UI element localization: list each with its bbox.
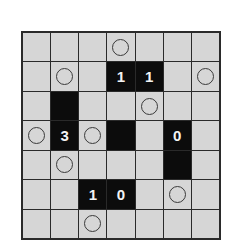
empty-cell[interactable]	[136, 180, 163, 208]
empty-cell[interactable]	[192, 121, 219, 149]
empty-cell[interactable]	[192, 210, 219, 238]
empty-cell[interactable]	[23, 92, 50, 120]
empty-cell[interactable]	[79, 33, 106, 61]
empty-cell[interactable]	[136, 151, 163, 179]
circle-icon	[56, 68, 73, 85]
empty-cell[interactable]	[23, 33, 50, 61]
black-cell: 3	[51, 121, 78, 149]
cell-number: 3	[61, 128, 69, 143]
circle-icon	[169, 186, 186, 203]
cell-number: 1	[89, 187, 97, 202]
cell-number: 1	[145, 69, 153, 84]
empty-cell[interactable]	[192, 180, 219, 208]
empty-cell[interactable]	[136, 210, 163, 238]
circle-icon	[56, 156, 73, 173]
circle-cell[interactable]	[136, 92, 163, 120]
circle-cell[interactable]	[79, 121, 106, 149]
black-cell: 1	[136, 62, 163, 90]
circle-cell[interactable]	[164, 180, 191, 208]
empty-cell[interactable]	[192, 33, 219, 61]
empty-cell[interactable]	[164, 92, 191, 120]
empty-cell[interactable]	[136, 33, 163, 61]
circle-cell[interactable]	[51, 62, 78, 90]
circle-cell[interactable]	[107, 33, 134, 61]
circle-cell[interactable]	[23, 121, 50, 149]
black-cell: 1	[79, 180, 106, 208]
empty-cell[interactable]	[164, 210, 191, 238]
empty-cell[interactable]	[79, 92, 106, 120]
empty-cell[interactable]	[107, 92, 134, 120]
empty-cell[interactable]	[51, 33, 78, 61]
circle-icon	[28, 127, 45, 144]
empty-cell[interactable]	[23, 151, 50, 179]
empty-cell[interactable]	[51, 180, 78, 208]
circle-icon	[197, 68, 214, 85]
empty-cell[interactable]	[136, 121, 163, 149]
empty-cell[interactable]	[107, 151, 134, 179]
circle-cell[interactable]	[192, 62, 219, 90]
black-cell: 0	[164, 121, 191, 149]
empty-cell[interactable]	[23, 180, 50, 208]
puzzle-board: 113010	[21, 31, 221, 240]
empty-cell[interactable]	[164, 62, 191, 90]
black-cell	[51, 92, 78, 120]
empty-cell[interactable]	[192, 92, 219, 120]
empty-cell[interactable]	[23, 62, 50, 90]
black-cell	[164, 151, 191, 179]
cell-number: 1	[117, 69, 125, 84]
empty-cell[interactable]	[164, 33, 191, 61]
empty-cell[interactable]	[51, 210, 78, 238]
cell-number: 0	[117, 187, 125, 202]
empty-cell[interactable]	[107, 210, 134, 238]
circle-icon	[141, 98, 158, 115]
black-cell: 0	[107, 180, 134, 208]
black-cell: 1	[107, 62, 134, 90]
circle-cell[interactable]	[51, 151, 78, 179]
black-cell	[107, 121, 134, 149]
cell-number: 0	[173, 128, 181, 143]
empty-cell[interactable]	[23, 210, 50, 238]
empty-cell[interactable]	[79, 151, 106, 179]
circle-cell[interactable]	[79, 210, 106, 238]
circle-icon	[84, 127, 101, 144]
circle-icon	[112, 39, 129, 56]
empty-cell[interactable]	[192, 151, 219, 179]
empty-cell[interactable]	[79, 62, 106, 90]
circle-icon	[84, 215, 101, 232]
